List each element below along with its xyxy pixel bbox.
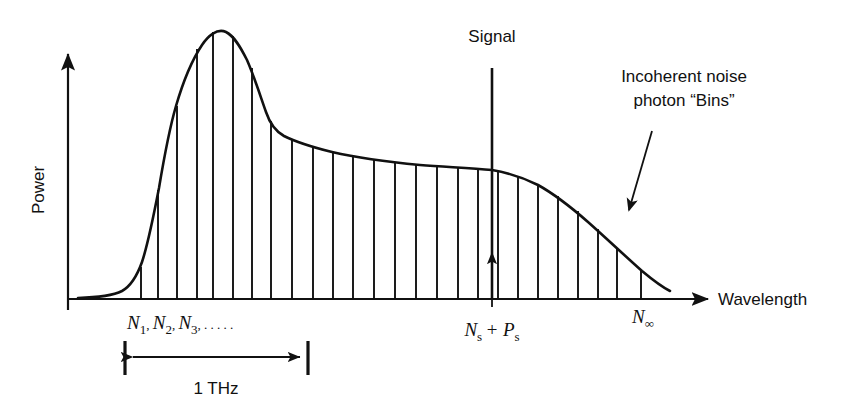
signal-marker-plus: + (485, 319, 503, 340)
signal-marker-label: Ns + Ps (463, 319, 519, 344)
svg-text:Ns + Ps: Ns + Ps (463, 319, 519, 344)
noise-pointer-group (629, 131, 652, 210)
n-infinity-sub: ∞ (645, 316, 654, 331)
power-wavelength-figure: Wavelength Power Signal Incoherent noise… (0, 0, 866, 410)
bins-series-label: N1, N2, N3, . . . . . (126, 312, 233, 337)
signal-marker-p: P (502, 319, 515, 340)
n-infinity-label: N∞ (631, 306, 654, 331)
y-axis-label: Power (29, 166, 48, 215)
noise-label-line2: photon “Bins” (633, 91, 734, 110)
figure-container: Wavelength Power Signal Incoherent noise… (0, 0, 866, 410)
noise-label-line1: Incoherent noise (621, 67, 747, 86)
noise-callout-pointer (629, 131, 652, 210)
bin-label-ellipsis: , . . . . . (198, 317, 234, 332)
signal-label: Signal (468, 27, 515, 46)
svg-text:N∞: N∞ (631, 306, 654, 331)
signal-marker-p-sub: s (515, 329, 520, 344)
axis-group (68, 54, 708, 310)
thz-span-bracket-group (125, 341, 308, 375)
photon-bin-lines-group (141, 32, 641, 299)
thz-span-label: 1 THz (193, 379, 238, 398)
svg-text:N1, N2, N3, . . . . .: N1, N2, N3, . . . . . (126, 312, 233, 337)
x-axis-label: Wavelength (718, 290, 807, 309)
